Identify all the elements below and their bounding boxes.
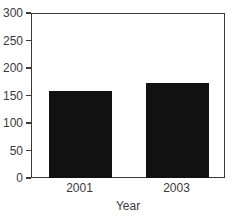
bar-chart-figure: 300250200150100500 20012003 Year [0,0,237,217]
plot-area-frame [31,13,225,178]
bar-2001 [49,91,111,178]
y-axis-tick-mark [26,150,31,152]
y-axis-tick-mark [26,95,31,97]
y-axis-tick-mark [26,12,31,14]
y-axis-tick-mark [26,67,31,69]
x-axis-tick-label: 2001 [31,180,128,196]
y-axis-tick-label: 0 [16,170,23,186]
y-axis-tick-label: 50 [10,143,23,159]
y-axis-tick-label: 300 [3,5,23,21]
y-axis-tick-label: 250 [3,33,23,49]
y-axis-tick-mark [26,122,31,124]
x-axis-title: Year [31,198,225,214]
y-axis-tick-label: 100 [3,115,23,131]
y-axis-tick-label: 200 [3,60,23,76]
y-axis-tick-mark [26,40,31,42]
y-axis: 300250200150100500 [0,0,31,217]
bar-2003 [146,83,208,178]
y-axis-tick-label: 150 [3,88,23,104]
y-axis-tick-mark [26,177,31,179]
x-axis-tick-label: 2003 [128,180,225,196]
